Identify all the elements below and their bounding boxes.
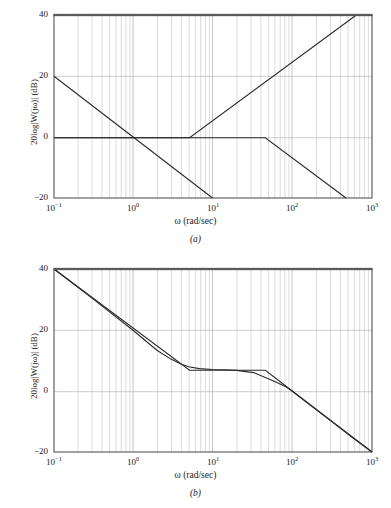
- xtick-a-3-mantissa: 10: [286, 203, 295, 213]
- figure-a: 40 20 0 −20 10−1 100 101 102 103 20log|W…: [0, 0, 391, 254]
- major-gridlines-b: [133, 269, 292, 452]
- y-axis-label-b: 20log|W(jω)| (dB): [29, 286, 39, 446]
- top-mask-a: [0, 0, 391, 14]
- y-axis-label-a: 20log|W(jω)| (dB): [29, 32, 39, 192]
- top-mask-b: [0, 254, 391, 268]
- minor-gridlines-b: [78, 269, 368, 452]
- xtick-a-4-exponent: 3: [375, 201, 378, 208]
- xtick-b-3-mantissa: 10: [286, 457, 295, 467]
- xtick-b-2-exponent: 1: [216, 455, 219, 462]
- xtick-a-2-mantissa: 10: [207, 203, 216, 213]
- figure-caption-a: (a): [0, 234, 391, 244]
- xtick-a-2-exponent: 1: [216, 201, 219, 208]
- xtick-b-4-mantissa: 10: [366, 457, 375, 467]
- figure-caption-b: (b): [0, 488, 391, 498]
- ytick-label-b-40: 40: [24, 263, 48, 273]
- x-axis-label-a: ω (rad/sec): [0, 216, 391, 226]
- x-axis-label-b: ω (rad/sec): [0, 470, 391, 480]
- xtick-a-0-mantissa: 10: [46, 203, 55, 213]
- xtick-a-1-exponent: 0: [136, 201, 139, 208]
- xtick-b-3-exponent: 2: [295, 455, 298, 462]
- major-gridlines-a: [133, 15, 292, 198]
- xtick-label-b-3: 102: [272, 455, 312, 467]
- xtick-label-a-1: 100: [113, 201, 153, 213]
- xtick-a-4-mantissa: 10: [366, 203, 375, 213]
- ytick-label-a-40: 40: [24, 9, 48, 19]
- xtick-label-a-0: 10−1: [34, 201, 74, 213]
- xtick-b-0-mantissa: 10: [46, 457, 55, 467]
- plot-b-canvas: [0, 254, 391, 464]
- xtick-label-b-2: 101: [193, 455, 233, 467]
- xtick-b-1-exponent: 0: [136, 455, 139, 462]
- xtick-label-a-2: 101: [193, 201, 233, 213]
- xtick-label-a-3: 102: [272, 201, 312, 213]
- xtick-label-b-1: 100: [113, 455, 153, 467]
- xtick-label-b-4: 103: [352, 455, 391, 467]
- xtick-label-b-0: 10−1: [34, 455, 74, 467]
- xtick-b-0-exponent: −1: [55, 455, 62, 462]
- xtick-b-2-mantissa: 10: [207, 457, 216, 467]
- figure-b: 40 20 0 −20 10−1 100 101 102 103 20log|W…: [0, 254, 391, 508]
- xtick-b-1-mantissa: 10: [127, 457, 136, 467]
- plot-a-canvas: [0, 0, 391, 210]
- minor-gridlines-a: [78, 15, 368, 198]
- xtick-a-1-mantissa: 10: [127, 203, 136, 213]
- figure-page: 40 20 0 −20 10−1 100 101 102 103 20log|W…: [0, 0, 391, 508]
- xtick-label-a-4: 103: [352, 201, 391, 213]
- xtick-a-0-exponent: −1: [55, 201, 62, 208]
- xtick-a-3-exponent: 2: [295, 201, 298, 208]
- xtick-b-4-exponent: 3: [375, 455, 378, 462]
